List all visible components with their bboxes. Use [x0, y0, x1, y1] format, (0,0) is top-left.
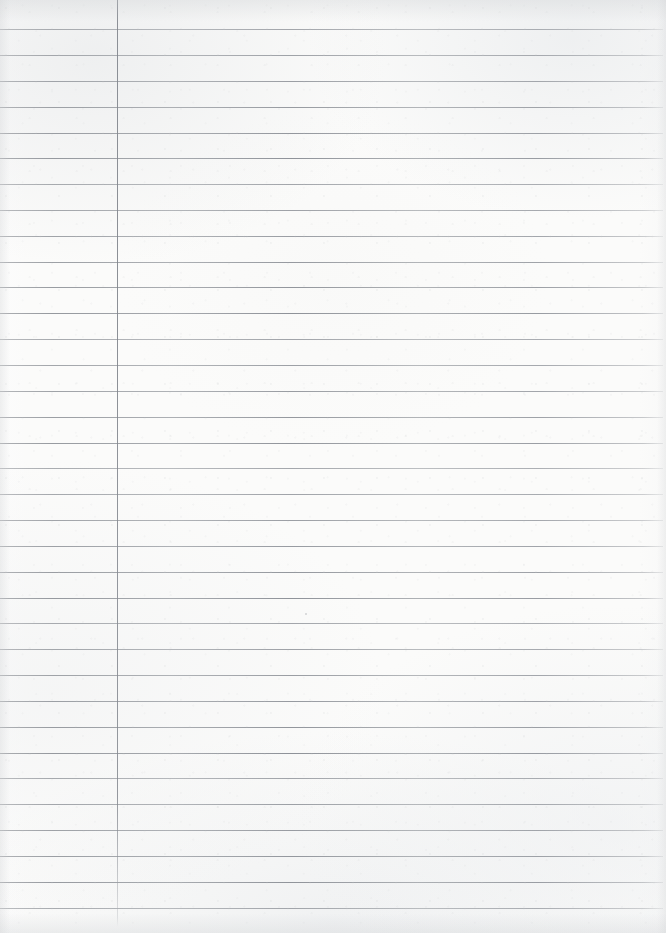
lined-paper-sheet [0, 0, 666, 933]
writing-area[interactable] [118, 0, 666, 933]
